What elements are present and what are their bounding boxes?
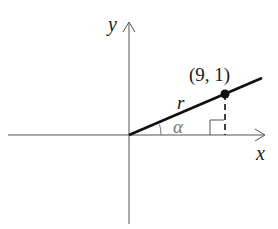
angle-label: α	[173, 116, 184, 137]
right-angle-marker	[210, 120, 224, 135]
x-axis-label: x	[255, 142, 265, 164]
ray-r	[129, 78, 262, 135]
angle-arc	[160, 125, 162, 136]
ray-label: r	[177, 92, 185, 113]
point-marker	[221, 90, 230, 99]
coordinate-diagram: y x (9, 1) r α	[0, 0, 278, 229]
y-axis-label: y	[106, 13, 117, 36]
point-label: (9, 1)	[189, 64, 230, 86]
